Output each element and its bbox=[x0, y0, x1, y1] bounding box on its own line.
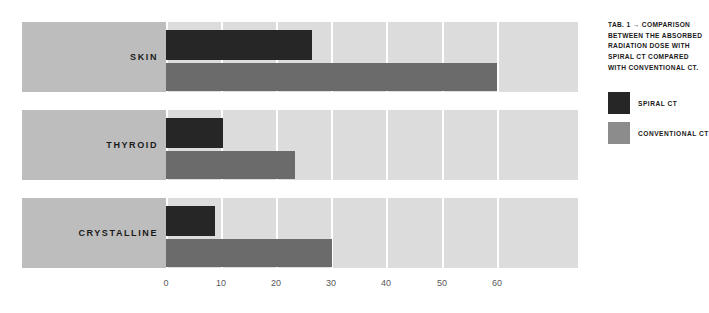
chart-row-skin: SKIN bbox=[22, 22, 578, 92]
bar-spiral-crystalline bbox=[166, 206, 215, 236]
plot-panel-skin bbox=[166, 22, 578, 92]
chart-caption: TAB. 1 → COMPARISON BETWEEN THE ABSORBED… bbox=[608, 20, 703, 73]
gridline-60 bbox=[497, 22, 499, 92]
bar-conventional-crystalline bbox=[166, 239, 332, 267]
gridline-60 bbox=[497, 198, 499, 268]
x-tick-label-60: 60 bbox=[492, 278, 502, 288]
x-tick-label-0: 0 bbox=[163, 278, 168, 288]
legend-label-spiral-ct: SPIRAL CT bbox=[638, 100, 677, 107]
legend-swatch-spiral-ct bbox=[608, 92, 630, 114]
row-label-thyroid: THYROID bbox=[106, 140, 158, 150]
plot-panel-thyroid bbox=[166, 110, 578, 180]
legend-label-conventional-ct: CONVENTIONAL CT bbox=[638, 130, 709, 137]
row-label-panel-crystalline: CRYSTALLINE bbox=[22, 198, 166, 268]
chart-row-crystalline: CRYSTALLINE bbox=[22, 198, 578, 268]
chart-row-thyroid: THYROID bbox=[22, 110, 578, 180]
chart-legend: SPIRAL CT CONVENTIONAL CT bbox=[608, 92, 705, 152]
x-axis: 0 10 20 30 40 50 60 bbox=[166, 278, 586, 298]
gridline-40 bbox=[386, 198, 388, 268]
bar-conventional-thyroid bbox=[166, 151, 295, 179]
x-tick-label-50: 50 bbox=[437, 278, 447, 288]
row-label-panel-skin: SKIN bbox=[22, 22, 166, 92]
bar-conventional-skin bbox=[166, 63, 497, 91]
gridline-30 bbox=[331, 110, 333, 180]
bar-spiral-skin bbox=[166, 30, 312, 60]
bar-spiral-thyroid bbox=[166, 118, 223, 148]
plot-panel-crystalline bbox=[166, 198, 578, 268]
x-tick-label-30: 30 bbox=[326, 278, 336, 288]
gridline-40 bbox=[386, 110, 388, 180]
gridline-60 bbox=[497, 110, 499, 180]
x-tick-label-40: 40 bbox=[381, 278, 391, 288]
gridline-50 bbox=[442, 198, 444, 268]
x-tick-label-10: 10 bbox=[216, 278, 226, 288]
row-label-crystalline: CRYSTALLINE bbox=[78, 228, 158, 238]
legend-item-conventional-ct: CONVENTIONAL CT bbox=[608, 122, 705, 144]
x-tick-label-20: 20 bbox=[271, 278, 281, 288]
gridline-50 bbox=[442, 110, 444, 180]
legend-swatch-conventional-ct bbox=[608, 122, 630, 144]
legend-item-spiral-ct: SPIRAL CT bbox=[608, 92, 705, 114]
row-label-panel-thyroid: THYROID bbox=[22, 110, 166, 180]
row-label-skin: SKIN bbox=[130, 52, 158, 62]
